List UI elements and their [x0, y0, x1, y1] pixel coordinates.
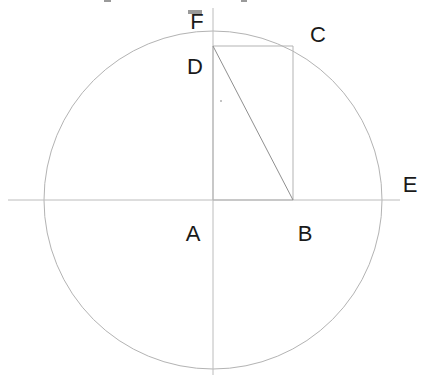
point-label-a: A	[186, 223, 201, 245]
point-label-d: D	[187, 56, 203, 78]
point-label-f: F	[190, 11, 203, 33]
stray-mark	[220, 100, 222, 102]
diagonal-line-db	[213, 46, 293, 200]
point-label-b: B	[298, 223, 313, 245]
geometry-canvas	[0, 0, 428, 383]
cropped-edge-mark-2	[241, 0, 247, 2]
cropped-edge-mark-0	[104, 0, 111, 2]
point-label-e: E	[403, 174, 418, 196]
cropped-edge-mark-1	[188, 10, 202, 14]
point-label-c: C	[310, 24, 326, 46]
geometry-diagram: FCDEAB	[0, 0, 428, 383]
